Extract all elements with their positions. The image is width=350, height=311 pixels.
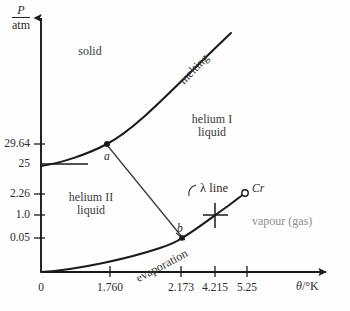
phase-diagram-figure: P atm 29.64 25 2.26 1.0 0.05 0 1.760 2.1… xyxy=(0,0,350,311)
region-label-solid: solid xyxy=(60,45,120,58)
critical-point-label: Cr xyxy=(252,182,264,194)
y-tick-label-25: 25 xyxy=(0,157,30,169)
boiling-point-marker xyxy=(203,203,228,228)
y-axis-label-numerator: P xyxy=(12,4,30,18)
lambda-leader xyxy=(189,185,196,196)
critical-point-marker xyxy=(242,190,248,196)
region-label-helium-i: helium I liquid xyxy=(177,113,247,139)
region-label-vapour: vapour (gas) xyxy=(252,215,312,228)
point-a-label: a xyxy=(104,150,110,162)
x-tick-label-0: 0 xyxy=(27,281,55,293)
y-tick-label-2-26: 2.26 xyxy=(0,187,30,199)
region-label-solid-line1: solid xyxy=(78,44,101,58)
point-b-label: b xyxy=(177,222,183,234)
y-axis-label: P atm xyxy=(12,4,30,31)
x-tick-label-1-760: 1.760 xyxy=(88,281,132,293)
point-b-marker xyxy=(179,235,185,241)
lambda-line-label: λ line xyxy=(200,182,228,196)
x-axis-label-unit: /°K xyxy=(302,279,319,293)
y-axis-label-denominator: atm xyxy=(12,18,30,31)
y-tick-label-0-05: 0.05 xyxy=(0,231,30,243)
region-label-helium-ii: helium II liquid xyxy=(55,191,127,217)
x-axis-label: θ/°K xyxy=(296,280,319,293)
y-tick-label-29-64: 29.64 xyxy=(0,137,30,149)
region-label-helium-i-line1: helium I xyxy=(192,112,232,126)
region-label-helium-ii-line2: liquid xyxy=(55,204,127,217)
region-label-helium-ii-line1: helium II xyxy=(69,190,113,204)
y-axis-ticks xyxy=(34,144,45,238)
region-label-helium-i-line2: liquid xyxy=(177,126,247,139)
y-tick-label-1-0: 1.0 xyxy=(0,208,30,220)
point-a-marker xyxy=(104,141,110,147)
x-tick-label-5-25: 5.25 xyxy=(228,281,266,293)
